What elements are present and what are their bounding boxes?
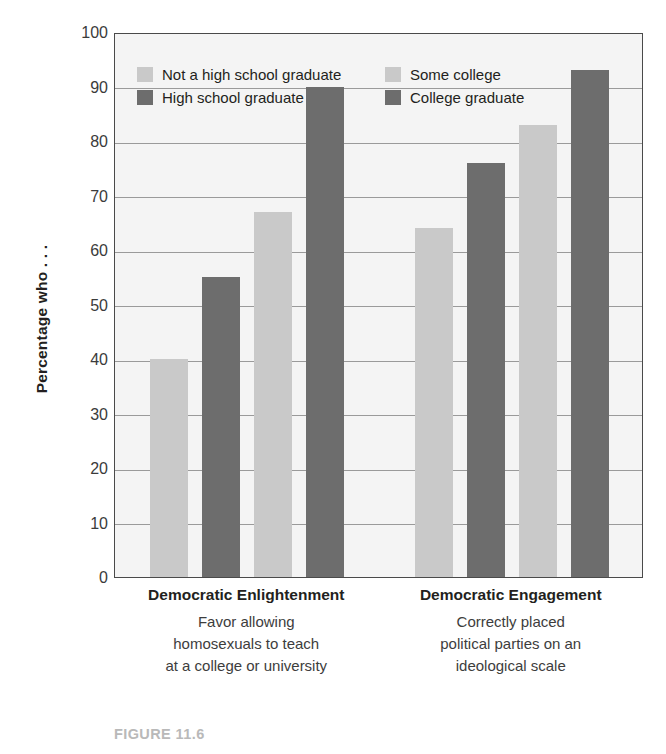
figure-caption: FIGURE 11.6	[114, 726, 205, 742]
legend-swatch-icon	[137, 90, 153, 105]
figure-container: Percentage who . . . 0102030405060708090…	[0, 0, 666, 754]
legend-item: Not a high school graduate	[137, 63, 385, 86]
y-axis-tick-label: 80	[52, 133, 108, 151]
legend-label: Some college	[410, 66, 501, 83]
group-description-line: Favor allowing	[116, 611, 376, 633]
group-description-line: homosexuals to teach	[116, 633, 376, 655]
legend-item: High school graduate	[137, 86, 385, 109]
chart-legend: Not a high school graduateSome collegeHi…	[137, 63, 607, 109]
y-axis-tick-label: 50	[52, 297, 108, 315]
group-description-line: at a college or university	[116, 655, 376, 677]
bars-layer	[115, 34, 642, 577]
y-axis-tick-label: 20	[52, 460, 108, 478]
bar	[467, 163, 505, 577]
y-axis-title: Percentage who . . .	[33, 199, 51, 439]
legend-label: Not a high school graduate	[162, 66, 341, 83]
legend-item: College graduate	[385, 86, 607, 109]
legend-label: High school graduate	[162, 89, 304, 106]
legend-label: College graduate	[410, 89, 524, 106]
bar	[150, 359, 188, 577]
y-axis-tick-label: 0	[52, 569, 108, 587]
legend-swatch-icon	[137, 67, 153, 82]
bar	[202, 277, 240, 577]
y-axis-tick-label: 90	[52, 79, 108, 97]
plot-area: Not a high school graduateSome collegeHi…	[114, 33, 643, 578]
y-axis-tick-labels: 0102030405060708090100	[52, 33, 108, 578]
group-description-line: Correctly placed	[381, 611, 641, 633]
group-description-line: political parties on an	[381, 633, 641, 655]
group-description-line: ideological scale	[381, 655, 641, 677]
legend-item: Some college	[385, 63, 607, 86]
group-title: Democratic Engagement	[381, 586, 641, 604]
bar	[306, 87, 344, 578]
y-axis-tick-label: 100	[52, 24, 108, 42]
group-captions: Democratic EnlightenmentFavor allowingho…	[114, 586, 643, 706]
legend-swatch-icon	[385, 90, 401, 105]
y-axis-tick-label: 30	[52, 406, 108, 424]
y-axis-tick-label: 40	[52, 351, 108, 369]
bar	[571, 70, 609, 577]
y-axis-tick-label: 60	[52, 242, 108, 260]
bar	[415, 228, 453, 577]
group-caption: Democratic EnlightenmentFavor allowingho…	[116, 586, 376, 677]
y-axis-tick-label: 10	[52, 515, 108, 533]
bar	[254, 212, 292, 577]
group-caption: Democratic EngagementCorrectly placedpol…	[381, 586, 641, 677]
legend-swatch-icon	[385, 67, 401, 82]
y-axis-tick-label: 70	[52, 188, 108, 206]
bar	[519, 125, 557, 577]
group-title: Democratic Enlightenment	[116, 586, 376, 604]
